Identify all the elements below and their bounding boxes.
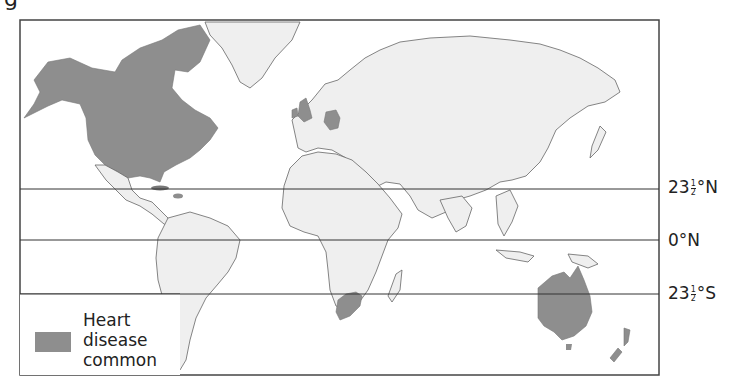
caribbean-highlighted bbox=[173, 194, 183, 199]
equator-label: 0°N bbox=[668, 230, 700, 250]
cuba-highlighted bbox=[151, 186, 169, 191]
tropic-of-cancer-label: 2312°N bbox=[668, 177, 718, 197]
tasmania-highlighted bbox=[566, 344, 572, 350]
legend-swatch bbox=[35, 332, 71, 352]
legend-label: Heart disease common bbox=[83, 310, 173, 370]
ireland-highlighted bbox=[292, 108, 298, 118]
tropic-of-capricorn-label: 2312°S bbox=[668, 283, 716, 303]
legend: Heart disease common bbox=[21, 296, 199, 374]
